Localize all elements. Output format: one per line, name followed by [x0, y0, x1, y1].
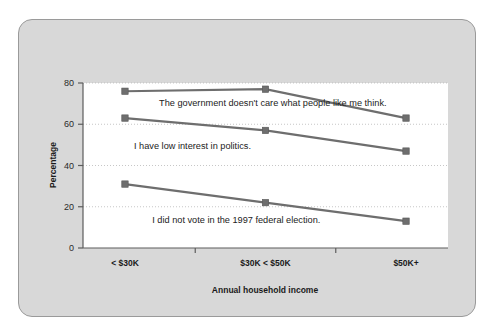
y-tick-label-60: 60: [64, 119, 74, 129]
series-annotation-0: The government doesn't care what people …: [159, 98, 387, 108]
y-tick-label-40: 40: [64, 161, 74, 171]
series-2-marker-1: [262, 199, 268, 205]
x-axis-ticks: [195, 248, 336, 253]
x-category-label-1: $30K < $50K: [240, 258, 291, 268]
series-1-marker-0: [122, 115, 128, 121]
x-category-label-0: < $30K: [111, 258, 140, 268]
y-axis-ticks: 020406080: [64, 78, 83, 253]
x-axis-category-labels: < $30K$30K < $50K$50K+: [111, 258, 419, 268]
series-2-marker-2: [403, 218, 409, 224]
y-tick-label-80: 80: [64, 78, 74, 88]
series-annotation-2: I did not vote in the 1997 federal elect…: [152, 215, 320, 225]
x-category-label-2: $50K+: [393, 258, 418, 268]
y-tick-label-20: 20: [64, 202, 74, 212]
series-2-marker-0: [122, 181, 128, 187]
y-axis-title: Percentage: [48, 142, 58, 188]
series-annotation-1: I have low interest in politics.: [134, 141, 251, 151]
line-chart: 020406080 < $30K$30K < $50K$50K+ The gov…: [0, 0, 497, 336]
x-axis-title: Annual household income: [212, 285, 319, 295]
y-tick-label-0: 0: [69, 243, 74, 253]
chart-figure: 020406080 < $30K$30K < $50K$50K+ The gov…: [0, 0, 497, 336]
series-1-marker-1: [262, 127, 268, 133]
series-1-marker-2: [403, 148, 409, 154]
series-0-marker-2: [403, 115, 409, 121]
series-0-marker-0: [122, 88, 128, 94]
series-0-marker-1: [262, 86, 268, 92]
